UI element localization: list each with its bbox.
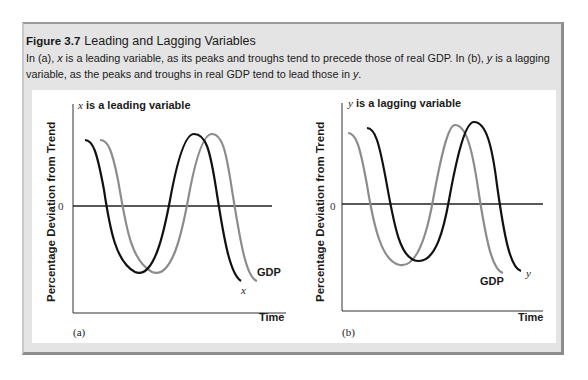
panel-label: (a): [73, 326, 86, 339]
x-line: [85, 134, 241, 281]
charts-svg: Percentage Deviation from Trend 0 x is a…: [0, 0, 588, 380]
title-rest: is a lagging variable: [353, 97, 461, 109]
title-rest: is a leading variable: [83, 99, 191, 111]
chart-title: y is a lagging variable: [347, 97, 461, 109]
x-axis-label: Time: [518, 311, 543, 323]
y-axis-label: Percentage Deviation from Trend: [314, 122, 326, 302]
gdp-line: [100, 134, 257, 281]
y-axis-label: Percentage Deviation from Trend: [45, 122, 57, 302]
gdp-line: [348, 125, 503, 273]
panel-label: (b): [342, 326, 355, 339]
series-label-gdp: GDP: [257, 266, 281, 278]
y-tick-zero: 0: [330, 200, 336, 212]
x-axis-label: Time: [259, 311, 284, 323]
series-label-y: y: [525, 267, 531, 279]
chart-title: x is a leading variable: [77, 99, 191, 111]
chart-panel-a: Percentage Deviation from Trend 0 x is a…: [45, 99, 286, 339]
series-label-gdp: GDP: [480, 275, 504, 287]
series-label-x: x: [240, 284, 246, 296]
y-tick-zero: 0: [58, 200, 64, 212]
chart-panel-b: Percentage Deviation from Trend 0 y is a…: [314, 97, 543, 339]
